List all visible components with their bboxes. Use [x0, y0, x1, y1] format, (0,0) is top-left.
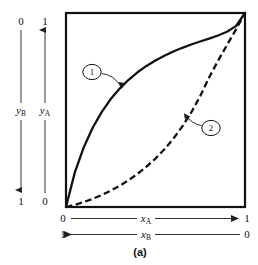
axis-x-b-right-value: 0 — [244, 228, 250, 240]
axis-y-b: 0 yB 1 — [15, 15, 26, 207]
axis-y-a: 1 yA 0 — [39, 15, 51, 207]
axis-x-a-right-value: 1 — [244, 212, 250, 224]
axis-x-a-label: xA — [140, 212, 152, 226]
axis-y-b-label: yB — [15, 104, 26, 118]
axis-y-b-bottom-value: 1 — [18, 195, 24, 207]
figure-caption: (a) — [133, 246, 147, 258]
axis-y-a-top-value: 1 — [42, 15, 48, 27]
axis-x-a: 0 xA 1 — [60, 212, 250, 226]
axis-y-b-top-value: 0 — [18, 15, 24, 27]
axis-x-b-label-sub: B — [146, 233, 151, 242]
axis-x-a-left-value: 0 — [60, 212, 66, 224]
callout-1-label: 1 — [90, 67, 95, 77]
callout-2-label: 2 — [209, 123, 214, 133]
axis-x-a-label-sub: A — [146, 217, 152, 226]
axis-y-a-label-sub: A — [45, 109, 51, 118]
axis-y-a-label: yA — [39, 104, 51, 118]
axis-y-a-bottom-value: 0 — [42, 195, 48, 207]
plot-frame — [66, 13, 245, 207]
axis-x-b-left-value: 1 — [60, 228, 66, 240]
figure-container: 1 2 0 yB 1 1 yA 0 0 — [0, 0, 258, 265]
axis-y-b-label-sub: B — [21, 109, 26, 118]
axis-x-b-label: xB — [140, 228, 151, 242]
equilibrium-diagram: 1 2 0 yB 1 1 yA 0 0 — [0, 0, 258, 265]
axis-x-b: 1 xB 0 — [60, 228, 250, 242]
